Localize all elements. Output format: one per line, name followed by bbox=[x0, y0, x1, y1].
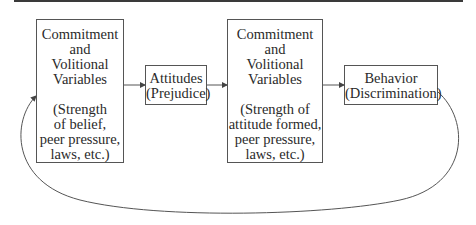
node-title-line: Commitment bbox=[37, 27, 123, 42]
attitudes-box: Attitudes (Prejudice) bbox=[145, 65, 207, 105]
node-detail-line: (Strength bbox=[37, 102, 123, 117]
node-line: Attitudes bbox=[146, 71, 206, 86]
node-detail-line: attitude formed, bbox=[228, 117, 322, 132]
node-line: (Discrimination) bbox=[345, 86, 437, 101]
node-title-line: Variables bbox=[37, 72, 123, 87]
node-detail-line: laws, etc.) bbox=[37, 147, 123, 162]
node-detail-line: laws, etc.) bbox=[228, 147, 322, 162]
node-title-line: and bbox=[37, 42, 123, 57]
node-title-line: Commitment bbox=[228, 27, 322, 42]
commitment-volitional-box-2: Commitment and Volitional Variables (Str… bbox=[227, 19, 323, 163]
behavior-box: Behavior (Discrimination) bbox=[344, 65, 438, 105]
node-title-line: Volitional bbox=[228, 57, 322, 72]
node-title-line: Volitional bbox=[37, 57, 123, 72]
node-line: Behavior bbox=[345, 71, 437, 86]
node-detail-line: of belief, bbox=[37, 117, 123, 132]
node-title-line: and bbox=[228, 42, 322, 57]
commitment-volitional-box-1: Commitment and Volitional Variables (Str… bbox=[36, 19, 124, 163]
node-title-line: Variables bbox=[228, 72, 322, 87]
node-detail-line: peer pressure, bbox=[37, 132, 123, 147]
node-detail-line: (Strength of bbox=[228, 102, 322, 117]
node-detail-line: peer pressure, bbox=[228, 132, 322, 147]
node-line: (Prejudice) bbox=[146, 86, 206, 101]
